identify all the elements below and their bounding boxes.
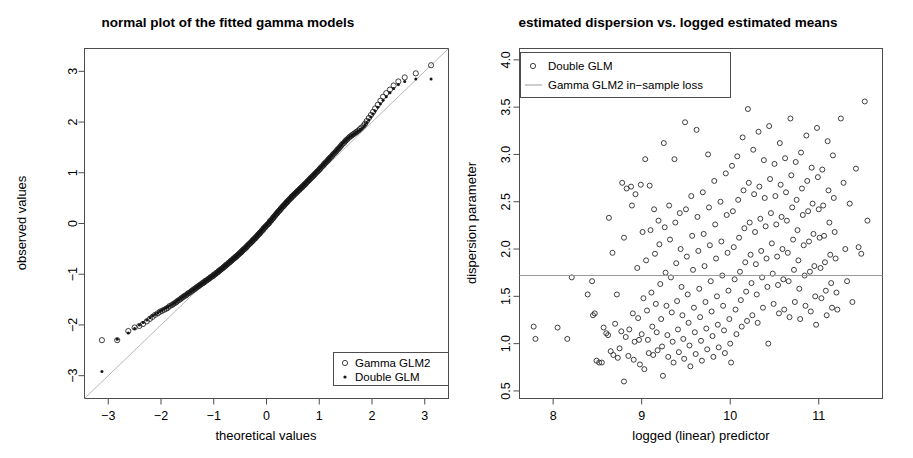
dispersion-legend[interactable]: Double GLM Gamma GLM2 in−sample loss	[521, 53, 731, 98]
qq-x-tick-label: 3	[421, 409, 428, 423]
qq-x-tick-label: 1	[316, 409, 323, 423]
dispersion-x-tick-label: 10	[723, 409, 737, 423]
dispersion-y-tick-label: 2.0	[499, 240, 513, 257]
qq-series-gamma-glm2	[99, 63, 433, 343]
dispersion-legend-label-0: Double GLM	[548, 60, 613, 72]
qq-plot-panel: normal plot of the fitted gamma models −…	[0, 0, 456, 458]
qq-series-double-glm	[100, 77, 432, 373]
qq-plot-svg: normal plot of the fitted gamma models −…	[0, 0, 456, 458]
qq-x-tick-label: 0	[263, 409, 270, 423]
qq-y-axis-label: observed values	[14, 175, 29, 270]
qq-x-axis-label: theoretical values	[215, 428, 317, 443]
dispersion-y-axis-label: dispersion parameter	[464, 161, 479, 284]
qq-y-tick-label: −2	[66, 318, 80, 332]
dispersion-y-tick-label: 3.5	[499, 98, 513, 115]
dispersion-x-tick-label: 11	[812, 409, 825, 423]
dispersion-y-tick-label: 4.0	[499, 51, 513, 68]
qq-plot-title: normal plot of the fitted gamma models	[102, 15, 355, 30]
dispersion-series-double-glm	[531, 62, 870, 384]
dispersion-plot-title: estimated dispersion vs. logged estimate…	[519, 15, 838, 30]
qq-y-tick-label: 3	[66, 68, 80, 75]
qq-x-tick-label: 2	[369, 409, 376, 423]
qq-legend-label-0: Gamma GLM2	[355, 357, 430, 369]
qq-y-tick-label: −3	[66, 369, 80, 383]
qq-legend-label-1: Double GLM	[355, 371, 420, 383]
dispersion-y-tick-label: 1.0	[499, 335, 513, 352]
dispersion-x-tick-label: 8	[550, 409, 557, 423]
qq-y-tick-label: 2	[66, 119, 80, 126]
qq-y-tick-label: 1	[66, 169, 80, 176]
dispersion-y-tick-label: 1.5	[499, 288, 513, 305]
qq-x-tick-label: −3	[101, 409, 115, 423]
qq-x-tick-label: −2	[154, 409, 168, 423]
dispersion-x-axis-label: logged (linear) predictor	[632, 428, 770, 443]
filled-dot-marker-icon	[343, 375, 346, 378]
qq-y-tick-label: −1	[66, 267, 80, 281]
dispersion-legend-label-1: Gamma GLM2 in−sample loss	[548, 79, 703, 91]
dispersion-y-axis-ticks: 0.51.01.52.02.53.03.54.0	[499, 51, 520, 400]
qq-legend[interactable]: Gamma GLM2 Double GLM	[334, 353, 449, 386]
dispersion-x-axis-ticks: 891011	[550, 399, 826, 423]
dispersion-y-tick-label: 2.5	[499, 193, 513, 210]
dispersion-plot-panel: estimated dispersion vs. logged estimate…	[456, 0, 913, 458]
qq-x-tick-label: −1	[207, 409, 221, 423]
dispersion-y-tick-label: 3.0	[499, 146, 513, 163]
dispersion-plot-svg: estimated dispersion vs. logged estimate…	[456, 0, 913, 458]
qq-y-axis-ticks: −3−2−10123	[66, 68, 85, 383]
qq-y-tick-label: 0	[66, 220, 80, 227]
figure-container: normal plot of the fitted gamma models −…	[0, 0, 913, 458]
qq-x-axis-ticks: −3−2−10123	[101, 399, 428, 423]
dispersion-x-tick-label: 9	[638, 409, 645, 423]
dispersion-y-tick-label: 0.5	[499, 382, 513, 399]
dispersion-plot-frame	[520, 49, 883, 399]
